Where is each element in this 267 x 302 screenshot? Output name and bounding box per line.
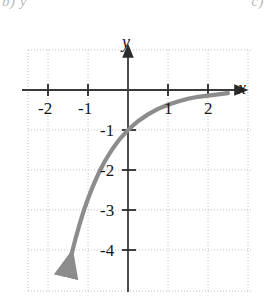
coordinate-plane <box>0 0 267 302</box>
x-tick-label-1: 1 <box>164 100 173 117</box>
y-tick-label-neg3: -3 <box>100 202 114 219</box>
y-axis-label: y <box>122 33 130 51</box>
y-axis-ticks <box>122 130 136 250</box>
y-tick-label-neg2: -2 <box>100 162 114 179</box>
curve-exponential <box>68 93 228 269</box>
graph-svg <box>0 0 267 302</box>
x-tick-label-neg1: -1 <box>78 100 92 117</box>
y-tick-label-neg4: -4 <box>100 242 114 259</box>
y-tick-label-neg1: -1 <box>100 122 114 139</box>
x-tick-label-neg2: -2 <box>38 100 52 117</box>
chart-screenshot: b) y c) <box>0 0 267 302</box>
x-axis-label: x <box>238 79 246 97</box>
x-tick-label-2: 2 <box>204 100 213 117</box>
grid-lines-horizontal <box>28 50 252 291</box>
